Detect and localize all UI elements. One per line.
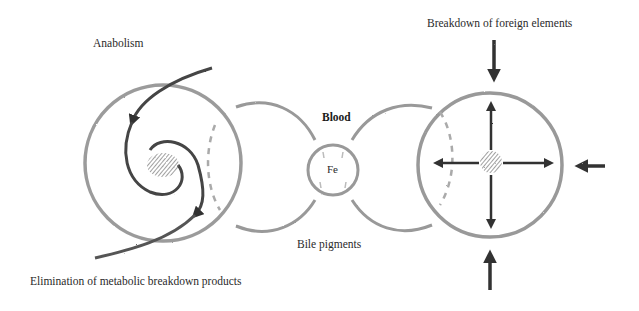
metabolic-cell (85, 68, 241, 258)
defense-cell (418, 40, 605, 290)
anabolism-label: Anabolism (93, 37, 143, 49)
foreign-elements-label: Breakdown of foreign elements (427, 17, 572, 29)
connector-left (236, 103, 315, 232)
elimination-label: Elimination of metabolic breakdown produ… (30, 275, 241, 287)
connector-right (352, 105, 432, 230)
blood-label: Blood (322, 111, 351, 123)
iron-label: Fe (327, 163, 338, 175)
bile-pigments-label: Bile pigments (297, 238, 361, 250)
